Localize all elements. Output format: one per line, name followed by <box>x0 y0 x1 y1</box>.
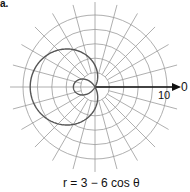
radius-tick-label: 10 <box>158 89 170 101</box>
arrowhead-icon <box>172 83 181 91</box>
polar-axis-label: 0 <box>181 80 188 94</box>
part-label: a. <box>0 0 8 9</box>
equation-caption: r = 3 − 6 cos θ <box>63 176 140 190</box>
